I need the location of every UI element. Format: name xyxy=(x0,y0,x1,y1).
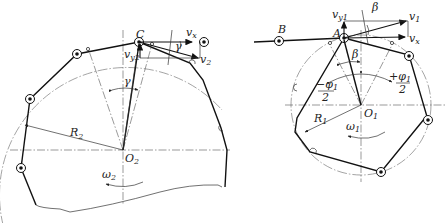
left-gamma-label: γ xyxy=(124,75,131,88)
left-sprocket: R2 γ C vx v2 vy2 γ O2 ω2 xyxy=(0,26,230,223)
right-beta-top-label: β xyxy=(371,1,378,14)
phi-plus-label: +φ1 xyxy=(389,70,411,84)
right-sprocket: R1 β −φ1 2 +φ1 2 vy1 v1 vx β A B O1 ω1 xyxy=(254,1,445,182)
right-vx-vector xyxy=(344,37,405,38)
phi-minus-den: 2 xyxy=(321,91,329,104)
point-c-label: C xyxy=(136,28,145,41)
point-b-label: B xyxy=(277,23,286,36)
right-vy-label: vy1 xyxy=(332,8,348,22)
left-v2-label: v2 xyxy=(200,53,211,67)
left-omega-arrow xyxy=(106,182,143,187)
left-vx-label: vx xyxy=(186,26,197,40)
left-body-outline xyxy=(36,185,222,212)
diagram-canvas: R2 γ C vx v2 vy2 γ O2 ω2 xyxy=(0,0,447,223)
right-center-label: O1 xyxy=(364,107,378,121)
sprocket-diagram: R2 γ C vx v2 vy2 γ O2 ω2 xyxy=(0,0,447,223)
left-center-label: O2 xyxy=(125,152,139,166)
phi-plus-den: 2 xyxy=(398,83,406,96)
right-v1-label: v1 xyxy=(409,10,420,24)
right-radius-label: R1 xyxy=(313,112,327,126)
right-beta-label: β xyxy=(351,48,358,61)
left-omega-label: ω2 xyxy=(102,168,116,182)
left-angle-label: γ xyxy=(175,40,182,53)
point-a-label: A xyxy=(332,27,341,40)
right-vx-label: vx xyxy=(409,32,420,46)
left-v2-vector xyxy=(139,42,198,58)
left-radius-label: R2 xyxy=(69,126,83,141)
right-omega-label: ω1 xyxy=(346,120,360,134)
right-v1-vector xyxy=(344,21,406,38)
